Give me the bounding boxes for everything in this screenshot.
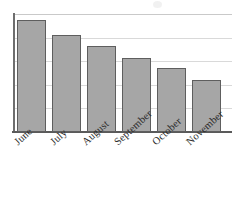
bar — [17, 20, 46, 132]
bars-group — [13, 14, 232, 132]
bar-chart: JuneJulyAugustSeptemberOctoberNovember — [0, 0, 234, 199]
scan-artifact — [153, 1, 162, 8]
bar — [52, 35, 81, 132]
x-axis-labels-group: JuneJulyAugustSeptemberOctoberNovember — [0, 133, 234, 199]
